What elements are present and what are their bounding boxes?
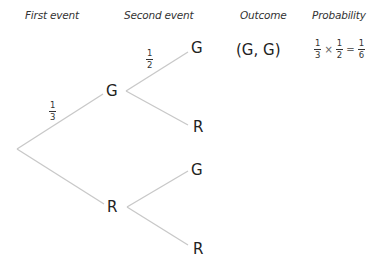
node-first-r: R: [107, 200, 117, 215]
branch-g-to-g: [126, 52, 188, 91]
node-second-gr: R: [193, 120, 203, 135]
branch-r-to-g: [127, 171, 188, 207]
probability-gg: 1 3 × 1 2 = 1 6: [314, 39, 365, 59]
multiply-sign: ×: [324, 44, 332, 55]
fraction-second-gg: 1 2: [146, 49, 153, 69]
fraction-a: 1 3: [314, 39, 321, 59]
equals-sign: =: [346, 44, 354, 55]
fraction-first-g: 1 3: [49, 101, 56, 121]
fraction-result: 1 6: [358, 39, 365, 59]
outcome-gg: (G, G): [236, 41, 281, 59]
node-second-rr: R: [193, 242, 203, 257]
branch-root-to-r: [17, 149, 104, 204]
fraction-b: 1 2: [336, 39, 343, 59]
node-second-gg: G: [191, 41, 203, 56]
branch-r-to-r: [127, 207, 188, 245]
branch-g-to-r: [126, 91, 188, 125]
branch-root-to-g: [17, 94, 103, 149]
node-second-rg: G: [191, 163, 203, 178]
node-first-g: G: [106, 84, 118, 99]
